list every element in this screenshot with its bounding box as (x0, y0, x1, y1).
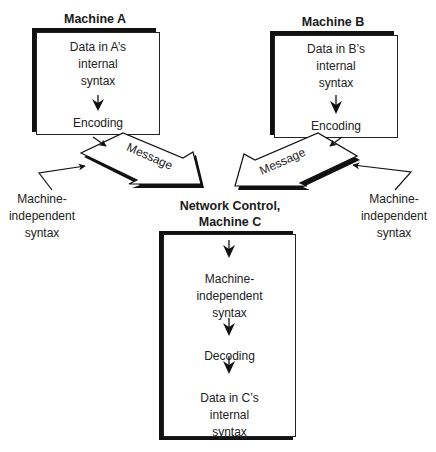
right-callout-pointer (353, 165, 411, 190)
down-arrow-icon (223, 240, 235, 258)
diagram-arrows-overlay: Message Message (0, 0, 436, 452)
down-arrow-icon (223, 356, 235, 374)
down-arrow-icon (223, 318, 235, 336)
message-arrow-b: Message (235, 133, 360, 190)
down-arrow-icon (92, 95, 104, 111)
down-arrow-icon (330, 95, 342, 114)
left-callout-pointer (39, 166, 85, 190)
